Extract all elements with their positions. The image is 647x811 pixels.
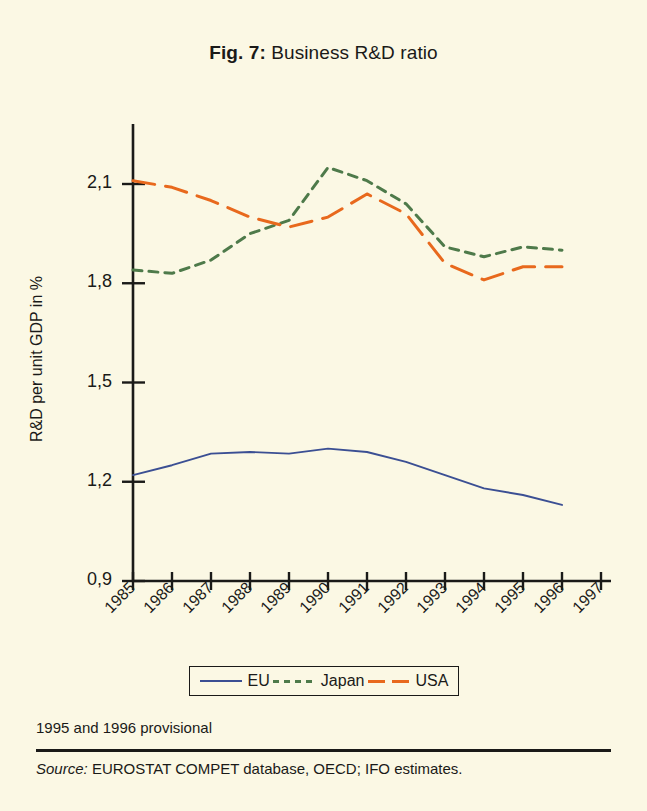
source-text: EUROSTAT COMPET database, OECD; IFO esti… — [92, 760, 463, 777]
note-source: Source: EUROSTAT COMPET database, OECD; … — [36, 760, 463, 777]
figure-page: Fig. 7: Business R&D ratio R&D per unit … — [0, 0, 647, 811]
legend-entry-usa[interactable]: USA — [368, 672, 449, 690]
legend-entry-eu[interactable]: EU — [200, 672, 270, 690]
series-line-eu — [133, 449, 562, 505]
note-provisional: 1995 and 1996 provisional — [36, 719, 212, 736]
legend-label: EU — [248, 672, 270, 690]
legend-swatch-eu-icon — [200, 680, 242, 683]
source-keyword: Source: — [36, 760, 88, 777]
y-tick-label: 0,9 — [52, 569, 112, 590]
legend-swatch-japan-icon — [273, 680, 315, 683]
y-tick-label: 2,1 — [52, 172, 112, 193]
legend-entry-japan[interactable]: Japan — [273, 672, 365, 690]
legend-label: Japan — [321, 672, 365, 690]
data-series-group — [133, 167, 562, 504]
series-line-japan — [133, 167, 562, 273]
axis-lines — [132, 124, 611, 581]
y-tick-label: 1,2 — [52, 470, 112, 491]
note-divider — [36, 749, 611, 752]
y-tick-label: 1,5 — [52, 371, 112, 392]
legend-label: USA — [416, 672, 449, 690]
chart-legend: EUJapanUSA — [189, 666, 459, 696]
y-tick-label: 1,8 — [52, 271, 112, 292]
legend-swatch-usa-icon — [368, 680, 410, 683]
